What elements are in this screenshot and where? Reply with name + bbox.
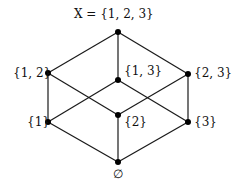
node-empty xyxy=(115,159,121,165)
node-top xyxy=(115,29,121,35)
node-13 xyxy=(115,77,121,83)
node-23 xyxy=(185,71,191,77)
edge-23-2 xyxy=(118,74,188,115)
edge-12-2 xyxy=(48,73,118,115)
node-label-1: {1} xyxy=(27,116,50,128)
edges xyxy=(48,32,188,162)
node-label-12: {1, 2} xyxy=(13,67,51,79)
node-label-23: {2, 3} xyxy=(194,67,232,79)
node-3 xyxy=(185,119,191,125)
node-label-empty: ∅ xyxy=(113,168,123,180)
node-2 xyxy=(115,112,121,118)
edge-13-1 xyxy=(48,80,118,122)
hasse-diagram xyxy=(0,0,233,185)
node-label-3: {3} xyxy=(194,116,217,128)
node-label-2: {2} xyxy=(124,116,147,128)
edge-1-empty xyxy=(48,122,118,162)
edge-top-12 xyxy=(48,32,118,73)
node-label-top: X = {1, 2, 3} xyxy=(74,8,154,20)
node-label-13: {1, 3} xyxy=(124,65,162,77)
